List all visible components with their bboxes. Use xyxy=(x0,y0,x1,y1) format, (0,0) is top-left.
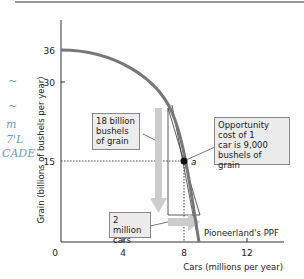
opportunity-cost-box: Opportunity cost of 1 car is 9,000 bushe… xyxy=(214,117,290,165)
cars-arrow xyxy=(168,218,190,226)
y-tick-36: 36 xyxy=(44,46,56,56)
x-tick-0: 0 xyxy=(52,248,58,258)
y-axis-label: Grain (billions of bushels per year) xyxy=(36,77,46,224)
ppf-label: Pioneerland's PPF xyxy=(204,228,279,238)
handwriting-2: ~ xyxy=(8,100,17,113)
handwriting-3: m xyxy=(6,118,16,131)
x-tick-12: 12 xyxy=(241,248,252,258)
x-axis-label: Cars (millions per year) xyxy=(183,262,283,272)
handwriting-4: 7'L xyxy=(6,133,23,146)
grain-arrow xyxy=(155,108,162,200)
handwriting-1: ~ xyxy=(8,75,17,88)
point-a-label: a xyxy=(191,157,197,167)
x-tick-8: 8 xyxy=(181,248,187,258)
cars-box: 2 million cars xyxy=(109,212,151,238)
x-tick-4: 4 xyxy=(120,248,126,258)
point-a xyxy=(181,158,188,165)
grain-box: 18 billion bushels of grain xyxy=(92,113,140,150)
handwriting-5: CADE xyxy=(2,147,35,160)
